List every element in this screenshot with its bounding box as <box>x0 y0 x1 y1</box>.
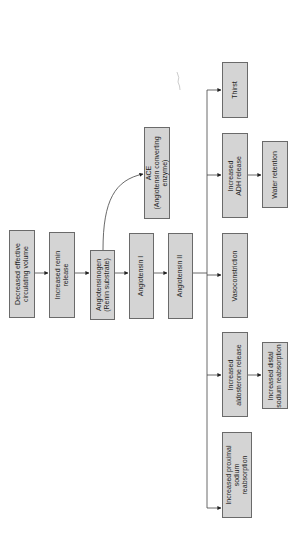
node-label: Increased ADH release <box>227 156 243 196</box>
node-distal-sodium: Increased distal sodium reabsorption <box>262 342 288 409</box>
node-thirst: Thirst <box>222 62 248 118</box>
node-label: Angiotensinogen (Renin substrate) <box>95 258 111 312</box>
node-label: Increased renin release <box>54 251 70 299</box>
node-label: Thirst <box>231 81 239 99</box>
node-water-retention: Water retention <box>262 141 288 208</box>
node-ace: ACE (Angiotensin converting enzyme) <box>144 127 170 219</box>
node-adh-release: Increased ADH release <box>222 133 248 218</box>
node-label: Increased distal sodium reabsorption <box>267 344 283 407</box>
node-label: Angiotensin II <box>177 255 185 297</box>
node-proximal-sodium: Increased proximal sodium reabsorption <box>222 432 252 518</box>
node-angiotensin-1: Angiotensin I <box>129 233 154 319</box>
node-vasoconstriction: Vasoconstriction <box>222 233 248 318</box>
node-label: ACE (Angiotensin converting enzyme) <box>145 136 169 209</box>
node-angiotensin-2: Angiotensin II <box>168 233 193 319</box>
node-label: Vasoconstriction <box>231 250 239 301</box>
node-label: Increased proximal sodium reabsorption <box>225 445 249 504</box>
node-aldosterone-release: Increased aldosterone release <box>222 332 248 417</box>
node-label: Increased aldosterone release <box>227 344 243 406</box>
node-label: Decreased effective circulating volume <box>14 243 30 305</box>
node-label: Water retention <box>271 151 279 199</box>
node-label: Angiotensin I <box>138 256 146 296</box>
node-angiotensinogen: Angiotensinogen (Renin substrate) <box>90 250 115 320</box>
scan-artifact <box>177 72 180 90</box>
node-renin-release: Increased renin release <box>49 232 75 318</box>
node-decreased-volume: Decreased effective circulating volume <box>9 230 35 318</box>
